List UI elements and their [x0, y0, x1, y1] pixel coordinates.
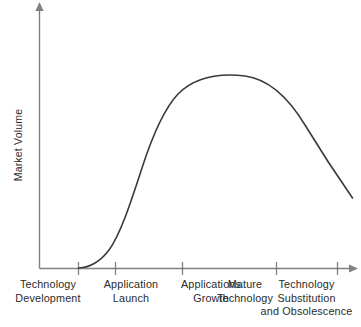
- stage-label-line-2: Launch: [89, 292, 173, 306]
- stage-label-group: Technology Development Application Launc…: [0, 278, 361, 327]
- y-axis-arrowhead: [35, 2, 43, 11]
- stage-label-line-1: Application: [89, 278, 173, 292]
- stage-label-line-1: Technology: [252, 278, 361, 292]
- life-cycle-curve: [79, 75, 353, 268]
- y-axis-label: Market Volume: [12, 109, 24, 182]
- x-axis-arrowhead: [349, 264, 358, 272]
- stage-label-line-3: and Obsolescence: [252, 305, 361, 319]
- stage-label-line-2: Development: [0, 292, 96, 306]
- technology-life-cycle-chart: Market Volume Technology Development App…: [0, 0, 361, 327]
- stage-label-line-2: Substitution: [252, 292, 361, 306]
- stage-label-line-1: Technology: [0, 278, 96, 292]
- stage-label-technology-development: Technology Development: [0, 278, 96, 305]
- stage-label-technology-substitution: Technology Substitution and Obsolescence: [252, 278, 361, 319]
- stage-label-application-launch: Application Launch: [89, 278, 173, 305]
